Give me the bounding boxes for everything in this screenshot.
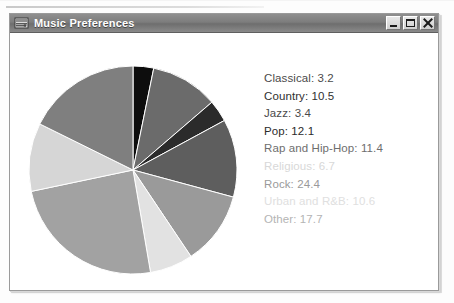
legend-item: Rap and Hip-Hop: 11.4 <box>264 140 383 158</box>
window-shadow-right <box>440 15 442 293</box>
close-button[interactable] <box>420 16 435 30</box>
pie-chart <box>28 65 238 275</box>
page-scan-artifact <box>6 6 264 8</box>
legend-item: Classical: 3.2 <box>264 70 383 88</box>
legend-item: Country: 10.5 <box>264 88 383 106</box>
legend-item: Other: 17.7 <box>264 211 383 229</box>
pie-chart-panel: Classical: 3.2Country: 10.5Jazz: 3.4Pop:… <box>10 33 438 290</box>
maximize-button[interactable] <box>403 16 418 30</box>
music-preferences-window: Music Preferences Classical: 3.2Country:… <box>9 13 439 291</box>
pie-chart-svg <box>28 65 238 275</box>
java-duke-icon <box>14 16 29 30</box>
legend-item: Urban and R&B: 10.6 <box>264 193 383 211</box>
legend-item: Religious: 6.7 <box>264 158 383 176</box>
window-shadow-bottom <box>11 291 442 293</box>
legend-item: Pop: 12.1 <box>264 123 383 141</box>
window-titlebar[interactable]: Music Preferences <box>10 14 438 33</box>
minimize-button[interactable] <box>386 16 401 30</box>
legend-item: Jazz: 3.4 <box>264 105 383 123</box>
window-title: Music Preferences <box>34 14 386 33</box>
page-edge-artifact <box>0 0 454 1</box>
chart-legend: Classical: 3.2Country: 10.5Jazz: 3.4Pop:… <box>264 70 383 228</box>
window-content: Classical: 3.2Country: 10.5Jazz: 3.4Pop:… <box>10 33 438 290</box>
window-controls <box>386 16 436 30</box>
legend-item: Rock: 24.4 <box>264 176 383 194</box>
